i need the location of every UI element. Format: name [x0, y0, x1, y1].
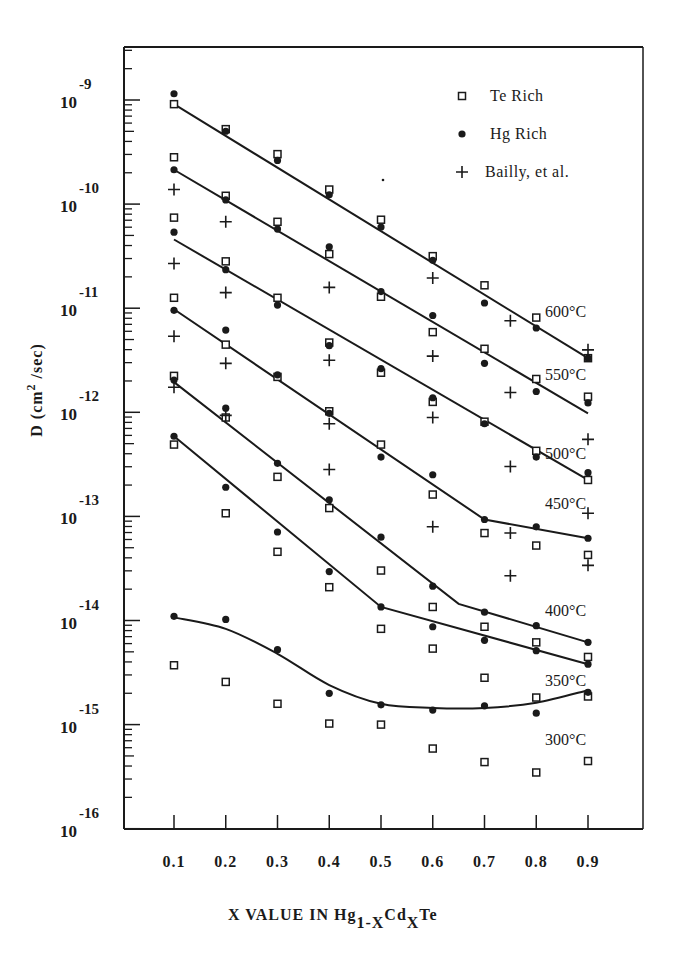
bailly-marker: [323, 354, 335, 366]
hg-rich-marker: [170, 90, 177, 97]
hg-rich-marker: [326, 342, 333, 349]
te-rich-marker: [274, 294, 281, 301]
te-rich-marker: [429, 645, 436, 652]
hg-rich-marker: [481, 516, 488, 523]
hg-rich-marker: [481, 420, 488, 427]
hg-rich-marker: [326, 568, 333, 575]
x-axis: 0.10.20.30.40.50.60.70.80.9: [163, 815, 600, 870]
te-rich-marker: [378, 216, 385, 223]
hg-rich-marker: [222, 128, 229, 135]
x-tick-label: 0.2: [214, 853, 237, 870]
y-axis-title: D (cm2 /sec): [24, 343, 46, 437]
te-rich-marker: [171, 154, 178, 161]
te-rich-marker: [585, 758, 592, 765]
curve-label: 350°C: [545, 672, 586, 689]
hg-rich-marker: [584, 469, 591, 476]
te-rich-marker: [274, 218, 281, 225]
legend-label: Te Rich: [490, 87, 543, 104]
x-tick-label: 0.8: [525, 853, 548, 870]
hg-rich-marker: [584, 399, 591, 406]
bailly-marker: [582, 433, 594, 445]
te-rich-marker: [326, 720, 333, 727]
bailly-marker: [323, 281, 335, 293]
hg-rich-marker: [377, 288, 384, 295]
hg-rich-marker: [222, 326, 229, 333]
bailly-marker: [220, 357, 232, 369]
x-tick-label: 0.5: [370, 853, 393, 870]
y-tick-label: 10-9: [60, 76, 92, 112]
te-rich-marker: [533, 542, 540, 549]
te-rich-marker: [585, 653, 592, 660]
curve-label: 300°C: [545, 731, 586, 748]
te-rich-marker: [274, 473, 281, 480]
te-rich-marker: [481, 623, 488, 630]
hg-rich-marker: [481, 637, 488, 644]
hg-rich-marker: [222, 484, 229, 491]
bailly-marker: [504, 387, 516, 399]
hg-rich-marker: [326, 496, 333, 503]
bailly-marker: [427, 521, 439, 533]
te-rich-marker: [429, 329, 436, 336]
hg-rich-marker: [429, 471, 436, 478]
fit-lines: 600°C550°C500°C450°C400°C350°C300°C: [174, 104, 588, 748]
hg-rich-marker: [377, 603, 384, 610]
bailly-marker: [220, 287, 232, 299]
hg-rich-marker: [274, 157, 281, 164]
te-rich-marker: [481, 530, 488, 537]
x-tick-label: 0.3: [266, 853, 289, 870]
te-rich-marker: [171, 662, 178, 669]
te-rich-marker: [378, 441, 385, 448]
te-rich-marker: [222, 510, 229, 517]
hg-rich-marker: [274, 225, 281, 232]
hg-rich-marker: [274, 460, 281, 467]
y-tick-label: 10-16: [60, 805, 99, 841]
bailly-marker: [504, 570, 516, 582]
hg-rich-marker: [274, 371, 281, 378]
curve-label: 450°C: [545, 495, 586, 512]
y-tick-label: 10-10: [60, 180, 99, 216]
te-rich-marker: [429, 745, 436, 752]
hg-rich-marker: [377, 453, 384, 460]
te-rich-marker: [459, 93, 466, 100]
bailly-marker: [504, 527, 516, 539]
bailly-marker: [456, 166, 468, 178]
hg-rich-marker: [326, 191, 333, 198]
bailly-marker: [427, 350, 439, 362]
legend-label: Hg Rich: [490, 125, 547, 143]
x-tick-label: 0.7: [473, 853, 496, 870]
hg-rich-marker: [377, 223, 384, 230]
x-axis-title: X VALUE IN Hg1-XCdXTe: [228, 906, 438, 931]
hg-rich-marker: [377, 534, 384, 541]
bailly-marker: [220, 216, 232, 228]
x-tick-label: 0.1: [163, 853, 186, 870]
curve-label: 600°C: [545, 303, 586, 320]
bailly-marker: [168, 381, 180, 393]
te-rich-marker: [326, 584, 333, 591]
hg-rich-marker: [481, 702, 488, 709]
te-rich-marker: [585, 393, 592, 400]
bailly-marker: [168, 330, 180, 342]
hg-rich-marker: [274, 301, 281, 308]
x-tick-label: 0.4: [318, 853, 341, 870]
te-rich-marker: [481, 282, 488, 289]
hg-rich-marker: [222, 266, 229, 273]
hg-rich-marker: [274, 528, 281, 535]
y-tick-label: 10-15: [60, 701, 99, 737]
te-rich-marker: [378, 721, 385, 728]
te-rich-marker: [222, 258, 229, 265]
x-tick-label: 0.9: [577, 853, 600, 870]
te-rich-marker: [222, 341, 229, 348]
hg-rich-marker: [429, 394, 436, 401]
bailly-marker: [427, 412, 439, 424]
bailly-marker: [582, 559, 594, 571]
hg-rich-marker: [533, 710, 540, 717]
hg-rich-marker: [170, 307, 177, 314]
te-rich-marker: [171, 441, 178, 448]
bailly-marker: [323, 418, 335, 430]
hg-rich-marker: [170, 613, 177, 620]
hg-rich-marker: [429, 623, 436, 630]
x-tick-label: 0.6: [421, 853, 444, 870]
hg-rich-marker: [458, 130, 465, 137]
te-rich-marker: [533, 639, 540, 646]
bailly-marker: [504, 315, 516, 327]
